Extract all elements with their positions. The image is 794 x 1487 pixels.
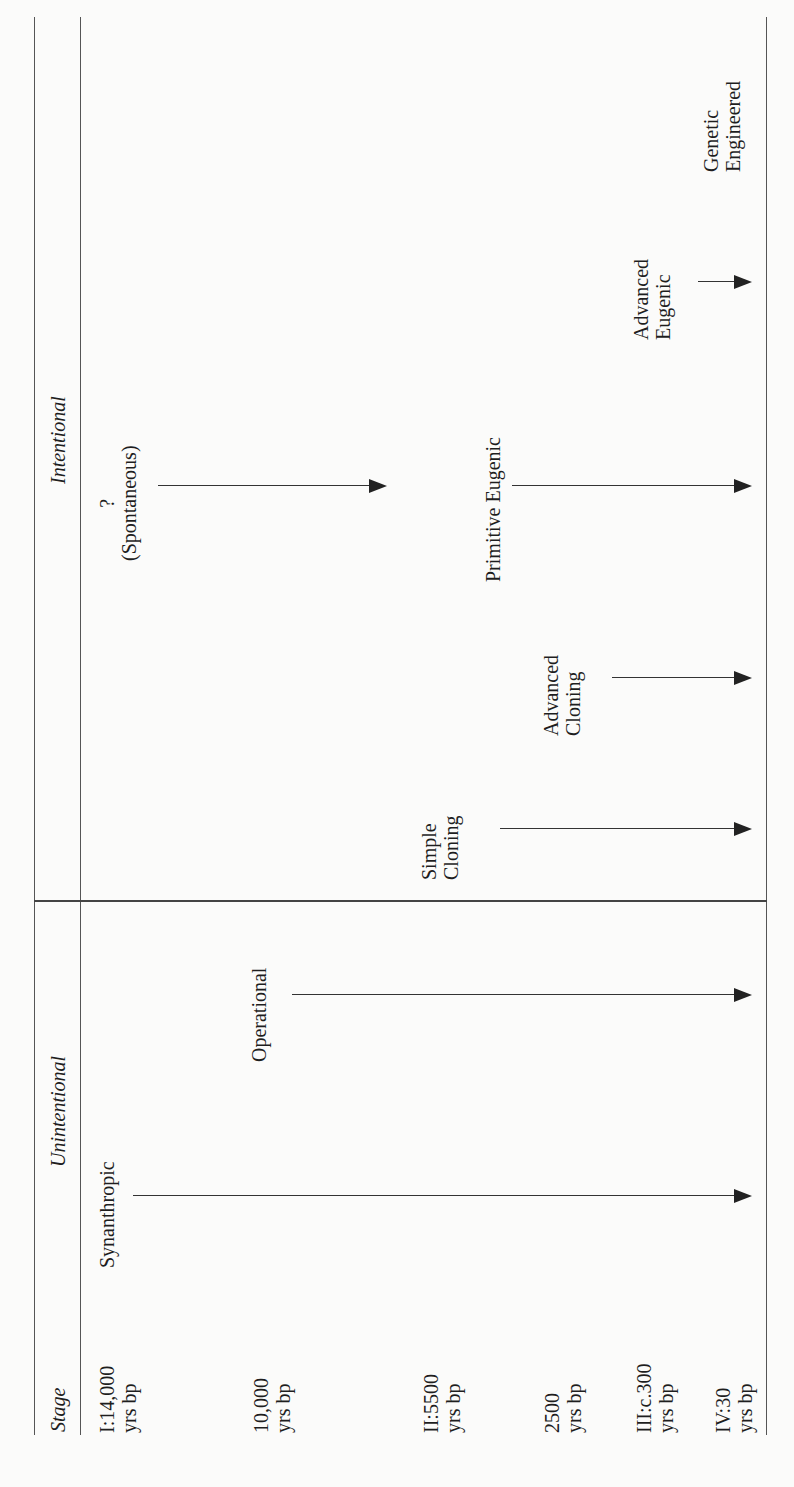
label-operational: Operational (248, 968, 270, 1062)
label-advanced-cloning: AdvancedCloning (540, 655, 584, 736)
header-stage: Stage (47, 1388, 69, 1432)
stage-label-2: 10,000yrs bp (250, 1378, 294, 1433)
label-genetic-engineered: GeneticEngineered (700, 81, 744, 172)
stage-label-1: I:14,000yrs bp (96, 1366, 140, 1433)
table-border-left (34, 17, 35, 1435)
label-spontaneous: ?(Spontaneous) (96, 445, 140, 561)
label-simple-cloning: SimpleCloning (418, 816, 462, 880)
label-advanced-eugenic: AdvancedEugenic (630, 259, 674, 340)
header-intentional: Intentional (47, 396, 69, 484)
stage-label-3: II:5500yrs bp (420, 1374, 464, 1433)
header-column-divider (80, 17, 81, 1435)
stage-label-5: III:c.300yrs bp (633, 1364, 677, 1433)
stage-label-6: IV:30yrs bp (712, 1384, 756, 1433)
header-unintentional: Unintentional (47, 1056, 69, 1167)
label-primitive-eugenic: Primitive Eugenic (482, 437, 504, 582)
stage-label-4: 2500yrs bp (541, 1384, 585, 1433)
label-synanthropic: Synanthropic (96, 1161, 118, 1268)
table-border-right (766, 17, 767, 1435)
section-divider (34, 900, 767, 902)
